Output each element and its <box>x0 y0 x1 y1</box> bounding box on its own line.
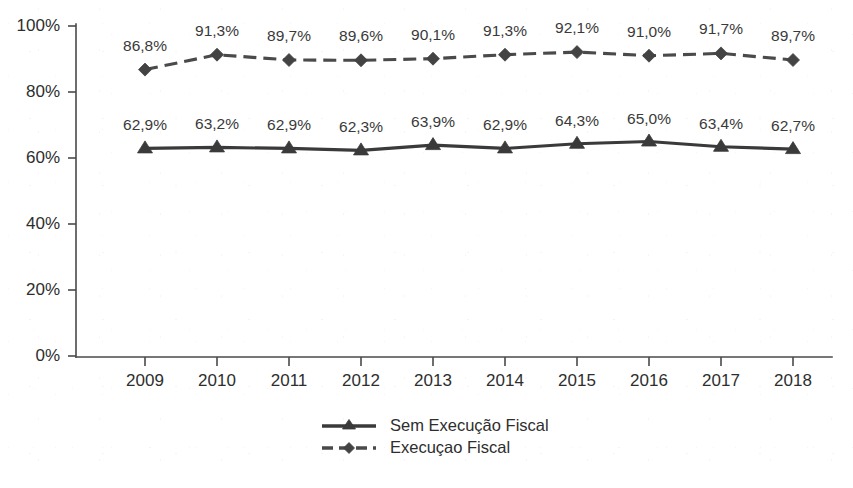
series-line-execucao-fiscal <box>145 52 793 70</box>
data-point-marker <box>210 140 225 152</box>
series-data-labels-sem-execucao-fiscal: 62,9%63,2%62,9%62,3%63,9%62,9%64,3%65,0%… <box>123 110 815 136</box>
data-label: 89,6% <box>339 27 383 44</box>
y-axis-ticks <box>68 26 76 356</box>
data-point-marker <box>283 54 296 67</box>
series-data-labels-execucao-fiscal: 86,8%91,3%89,7%89,6%90,1%91,3%92,1%91,0%… <box>123 19 815 54</box>
x-tick-label-2013: 2013 <box>414 371 452 390</box>
data-label: 89,7% <box>267 27 311 44</box>
x-tick-label-2015: 2015 <box>558 371 596 390</box>
legend-item-sem-execucao-fiscal[interactable]: Sem Execução Fiscal <box>322 416 549 434</box>
data-point-marker <box>355 54 368 67</box>
triangle-marker-icon <box>343 420 356 430</box>
data-label: 62,9% <box>267 116 311 133</box>
x-tick-label-2012: 2012 <box>342 371 380 390</box>
data-label: 62,9% <box>123 116 167 133</box>
data-label: 62,7% <box>771 117 815 134</box>
y-tick-label-80: 80% <box>26 82 60 101</box>
x-axis-tick-labels: 2009 2010 2011 2012 2013 2014 2015 2016 … <box>126 371 812 390</box>
data-label: 89,7% <box>771 27 815 44</box>
x-tick-label-2011: 2011 <box>271 371 308 390</box>
data-label: 65,0% <box>627 110 671 127</box>
legend-item-execucao-fiscal[interactable]: Execuçao Fiscal <box>322 438 510 456</box>
legend-label-sem-execucao-fiscal: Sem Execução Fiscal <box>390 416 549 434</box>
data-label: 91,7% <box>699 20 743 37</box>
line-chart: 100% 80% 60% 40% 20% 0% 2009 2010 2011 2… <box>0 0 853 488</box>
y-axis-tick-labels: 100% 80% 60% 40% 20% 0% <box>17 16 60 365</box>
data-label: 62,9% <box>483 116 527 133</box>
y-tick-label-0: 0% <box>35 346 60 365</box>
data-point-marker <box>499 48 512 61</box>
y-tick-label-20: 20% <box>26 280 60 299</box>
data-label: 63,2% <box>195 115 239 132</box>
data-point-marker <box>427 52 440 65</box>
data-label: 64,3% <box>555 112 599 129</box>
x-tick-label-2010: 2010 <box>198 371 236 390</box>
data-point-marker <box>715 47 728 60</box>
data-label: 91,3% <box>483 22 527 39</box>
data-label: 62,3% <box>339 118 383 135</box>
x-tick-label-2018: 2018 <box>774 371 812 390</box>
series-path-execucao-fiscal <box>145 52 793 70</box>
series-line-sem-execucao-fiscal <box>145 142 793 151</box>
data-point-marker <box>787 54 800 67</box>
x-tick-label-2017: 2017 <box>702 371 740 390</box>
x-axis-ticks <box>145 357 793 366</box>
series-path-sem-execucao-fiscal <box>145 142 793 151</box>
data-label: 91,0% <box>627 23 671 40</box>
y-tick-label-40: 40% <box>26 214 60 233</box>
data-point-marker <box>211 48 224 61</box>
y-tick-label-100: 100% <box>17 16 60 35</box>
diamond-marker-icon <box>344 443 355 454</box>
chart-legend: Sem Execução Fiscal Execuçao Fiscal <box>322 416 549 456</box>
data-label: 63,9% <box>411 113 455 130</box>
data-label: 92,1% <box>555 19 599 36</box>
data-point-marker <box>571 46 584 59</box>
y-tick-label-60: 60% <box>26 148 60 167</box>
data-point-marker <box>643 49 656 62</box>
data-point-marker <box>642 134 657 146</box>
x-tick-label-2016: 2016 <box>630 371 668 390</box>
data-label: 86,8% <box>123 37 167 54</box>
series-markers-execucao-fiscal <box>139 46 800 77</box>
data-point-marker <box>426 138 441 150</box>
chart-container: 100% 80% 60% 40% 20% 0% 2009 2010 2011 2… <box>0 0 853 488</box>
x-tick-label-2009: 2009 <box>126 371 164 390</box>
data-label: 91,3% <box>195 22 239 39</box>
legend-label-execucao-fiscal: Execuçao Fiscal <box>390 438 510 456</box>
x-tick-label-2014: 2014 <box>486 371 524 390</box>
data-label: 90,1% <box>411 26 455 43</box>
data-label: 63,4% <box>699 115 743 132</box>
data-point-marker <box>139 63 152 76</box>
